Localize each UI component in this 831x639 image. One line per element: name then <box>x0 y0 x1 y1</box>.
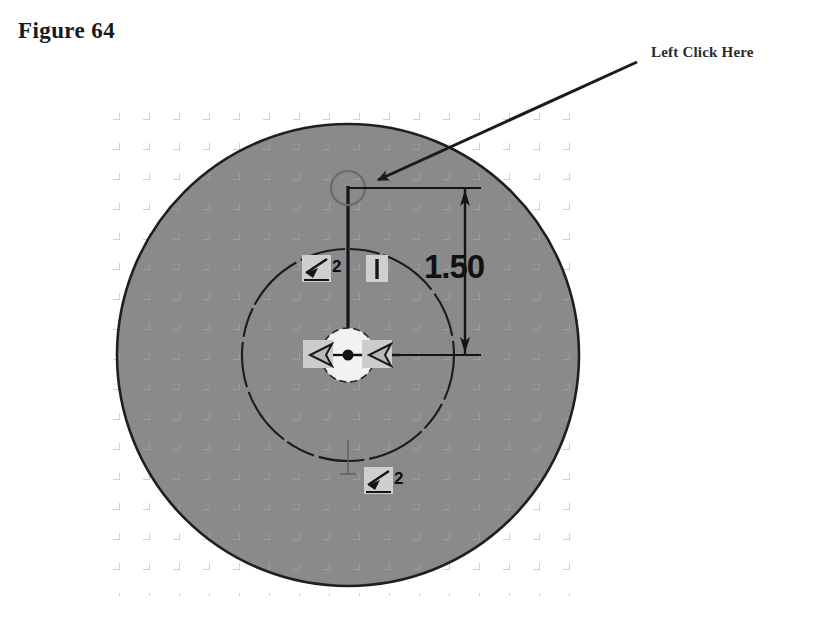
figure-label: Figure 64 <box>18 18 115 44</box>
tangent-arrow-right-glyph[interactable] <box>362 340 392 368</box>
figure-canvas: 1.50 2 2 <box>0 0 831 639</box>
tangent-arrow-left-glyph[interactable] <box>303 340 333 368</box>
tangent-constraint-count-bottom: 2 <box>394 470 403 487</box>
tangent-constraint-glyph-upper[interactable] <box>302 255 331 282</box>
left-click-here-callout: Left Click Here <box>651 44 754 61</box>
tangent-constraint-glyph-bottom[interactable] <box>364 467 393 494</box>
tangent-constraint-count-upper: 2 <box>332 258 341 275</box>
vertical-constraint-glyph[interactable] <box>366 255 388 282</box>
cad-sketch-svg <box>0 0 831 639</box>
dimension-value-text[interactable]: 1.50 <box>424 248 484 286</box>
